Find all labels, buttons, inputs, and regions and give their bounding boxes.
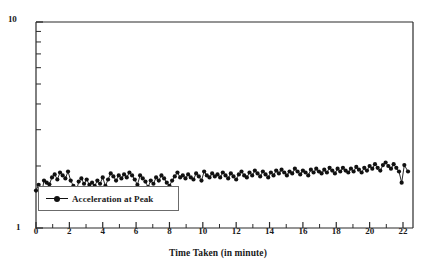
data-point xyxy=(170,178,174,182)
data-point xyxy=(66,169,70,173)
data-point xyxy=(373,162,377,166)
x-axis-ticks xyxy=(36,222,403,228)
x-axis-tick-label: 6 xyxy=(134,226,139,236)
data-point xyxy=(202,169,206,173)
data-point xyxy=(133,177,137,181)
legend-marker-icon xyxy=(44,193,70,205)
x-axis-tick-label: 0 xyxy=(34,226,39,236)
data-point xyxy=(191,177,195,181)
data-point xyxy=(149,178,153,182)
y-axis-tick-label-max: 10 xyxy=(8,14,17,24)
x-axis-tick-label: 2 xyxy=(67,226,72,236)
y-axis-tick-label-min: 1 xyxy=(16,222,21,232)
data-point xyxy=(173,174,177,178)
data-point xyxy=(90,181,94,185)
data-point xyxy=(106,177,110,181)
data-point xyxy=(333,171,337,175)
x-axis-tick-label: 4 xyxy=(100,226,105,236)
data-point xyxy=(183,176,187,180)
data-point xyxy=(360,170,364,174)
data-point xyxy=(311,170,315,174)
data-point xyxy=(207,175,211,179)
data-point xyxy=(365,168,369,172)
chart-legend: Acceleration at Peak xyxy=(38,186,179,211)
data-point xyxy=(119,176,123,180)
data-point xyxy=(63,176,67,180)
data-point xyxy=(234,177,238,181)
data-point xyxy=(370,167,374,171)
data-point xyxy=(400,181,404,185)
data-point xyxy=(352,169,356,173)
data-point xyxy=(346,170,350,174)
data-point xyxy=(157,178,161,182)
x-axis-tick-label: 8 xyxy=(167,226,172,236)
data-point xyxy=(125,175,129,179)
chart-figure: 10 1 0246810121416182022 Time Taken (in … xyxy=(0,0,436,271)
x-axis-tick-label: 20 xyxy=(365,226,374,236)
data-point xyxy=(101,175,105,179)
data-point xyxy=(258,174,262,178)
data-point xyxy=(114,178,118,182)
x-axis-tick-label: 16 xyxy=(298,226,307,236)
legend-label: Acceleration at Peak xyxy=(72,194,153,204)
data-point xyxy=(143,179,147,183)
data-point xyxy=(285,173,289,177)
data-point xyxy=(53,172,57,176)
data-point xyxy=(392,162,396,166)
x-axis-tick-label: 10 xyxy=(198,226,207,236)
data-point xyxy=(250,173,254,177)
data-point xyxy=(199,178,203,182)
data-point xyxy=(406,169,410,173)
data-point xyxy=(378,168,382,172)
data-point xyxy=(298,172,302,176)
data-point xyxy=(319,171,323,175)
x-axis-tick-label: 22 xyxy=(398,226,407,236)
data-point xyxy=(218,175,222,179)
data-point xyxy=(389,167,393,171)
x-axis-title: Time Taken (in minute) xyxy=(0,248,436,258)
x-axis-tick-label: 18 xyxy=(332,226,341,236)
data-point xyxy=(162,176,166,180)
data-point xyxy=(306,173,310,177)
x-axis-tick-label: 12 xyxy=(232,226,241,236)
data-point xyxy=(95,178,99,182)
data-point xyxy=(402,163,406,167)
data-point xyxy=(290,171,294,175)
data-point xyxy=(165,181,169,185)
data-point xyxy=(325,170,329,174)
data-point xyxy=(239,169,243,173)
data-point xyxy=(384,160,388,164)
data-point xyxy=(271,173,275,177)
data-point xyxy=(226,176,230,180)
data-point xyxy=(175,170,179,174)
x-axis-tick-label: 14 xyxy=(265,226,274,236)
data-point xyxy=(111,174,115,178)
data-point xyxy=(277,171,281,175)
data-point xyxy=(397,169,401,173)
data-point xyxy=(130,173,134,177)
data-point xyxy=(197,174,201,178)
data-point xyxy=(85,177,89,181)
data-point xyxy=(266,175,270,179)
data-point xyxy=(69,178,73,182)
data-point xyxy=(338,169,342,173)
data-point xyxy=(245,175,249,179)
data-point xyxy=(394,166,398,170)
data-point xyxy=(55,177,59,181)
data-point xyxy=(79,176,83,180)
